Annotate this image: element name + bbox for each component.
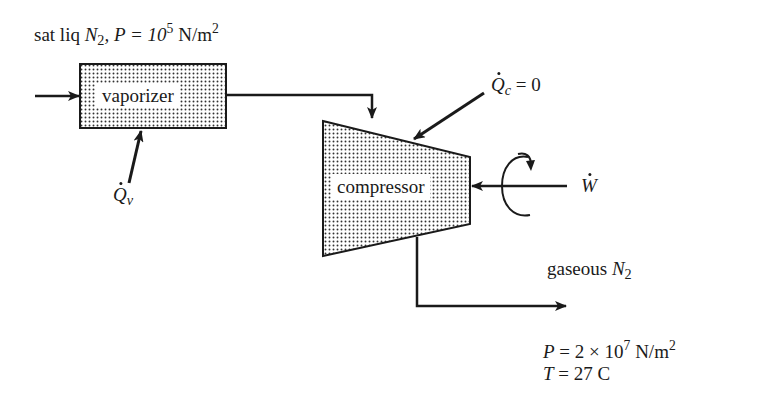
- unit-exp: 2: [669, 338, 676, 353]
- outlet-stream-arrow: [417, 237, 566, 306]
- heat-symbol: Q: [113, 185, 127, 204]
- inlet-species: N: [85, 24, 98, 45]
- inlet-prefix: sat liq: [34, 24, 85, 45]
- outlet-species-sub: 2: [625, 266, 632, 282]
- compressor-heat-label: Qc = 0: [491, 75, 541, 98]
- pressure-unit: N/m: [630, 341, 669, 362]
- outlet-temperature-label: T = 27 C: [543, 364, 610, 383]
- inlet-pressure-unit: N/m: [173, 24, 212, 45]
- outlet-prefix: gaseous: [547, 258, 612, 279]
- vaporizer-heat-label: Qv: [113, 185, 133, 208]
- outlet-pressure-label: P = 2 × 107 N/m2: [543, 339, 676, 361]
- heat-symbol: Q: [491, 75, 505, 94]
- heat-value: = 0: [511, 74, 541, 95]
- pressure-value: = 2 × 10: [555, 341, 624, 362]
- rotation-arrowhead-icon: [526, 160, 535, 171]
- heat-subscript: v: [127, 192, 133, 208]
- vaporizer-heat-arrow: [129, 131, 141, 183]
- outlet-species: N: [612, 258, 625, 279]
- pressure-symbol: P: [543, 341, 555, 362]
- compressor-heat-arrow: [414, 93, 484, 139]
- compressor-label: compressor: [332, 174, 430, 200]
- inlet-unit-exp: 2: [212, 21, 219, 36]
- work-label: W: [581, 176, 597, 195]
- transfer-stream-arrow: [227, 95, 372, 118]
- inlet-pressure-label: , P = 10: [104, 24, 166, 45]
- vaporizer-label: vaporizer: [96, 84, 180, 108]
- temperature-value: = 27 C: [554, 363, 611, 384]
- work-symbol: W: [581, 176, 597, 195]
- inlet-conditions-label: sat liq N2, P = 105 N/m2: [34, 22, 219, 48]
- outlet-species-label: gaseous N2: [547, 259, 632, 282]
- temperature-symbol: T: [543, 363, 554, 384]
